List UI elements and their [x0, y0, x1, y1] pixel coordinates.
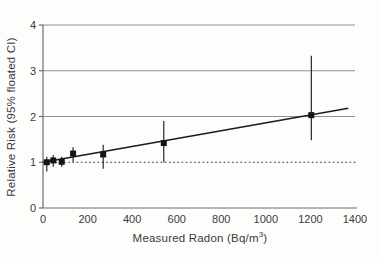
data-point-1 [50, 157, 56, 163]
y-tick-label-1: 1 [30, 156, 36, 168]
data-point-2 [59, 159, 65, 165]
y-tick-label-4: 4 [30, 19, 36, 31]
data-point-5 [161, 140, 167, 146]
x-axis-title: Measured Radon (Bq/m3) [133, 232, 268, 244]
x-tick-label-1000: 1000 [254, 213, 278, 225]
radon-risk-chart: 012340200400600800100012001400 Relative … [0, 0, 379, 259]
data-point-4 [100, 151, 106, 157]
y-tick-label-3: 3 [30, 65, 36, 77]
y-tick-label-0: 0 [30, 202, 36, 214]
x-axis-title-suffix: ) [263, 232, 267, 244]
data-point-0 [44, 159, 50, 165]
x-tick-label-600: 600 [168, 213, 186, 225]
x-tick-label-1400: 1400 [343, 213, 367, 225]
x-tick-label-400: 400 [123, 213, 141, 225]
x-tick-label-0: 0 [40, 213, 46, 225]
y-tick-label-2: 2 [30, 111, 36, 123]
x-tick-label-200: 200 [78, 213, 96, 225]
x-axis-title-text: Measured Radon (Bq/m [133, 232, 259, 244]
data-point-6 [308, 112, 314, 118]
data-point-3 [70, 151, 76, 157]
x-tick-label-1200: 1200 [298, 213, 322, 225]
x-tick-label-800: 800 [212, 213, 230, 225]
y-axis-title: Relative Risk (95% floated CI) [5, 37, 17, 196]
plot-area: 012340200400600800100012001400 [0, 0, 379, 259]
